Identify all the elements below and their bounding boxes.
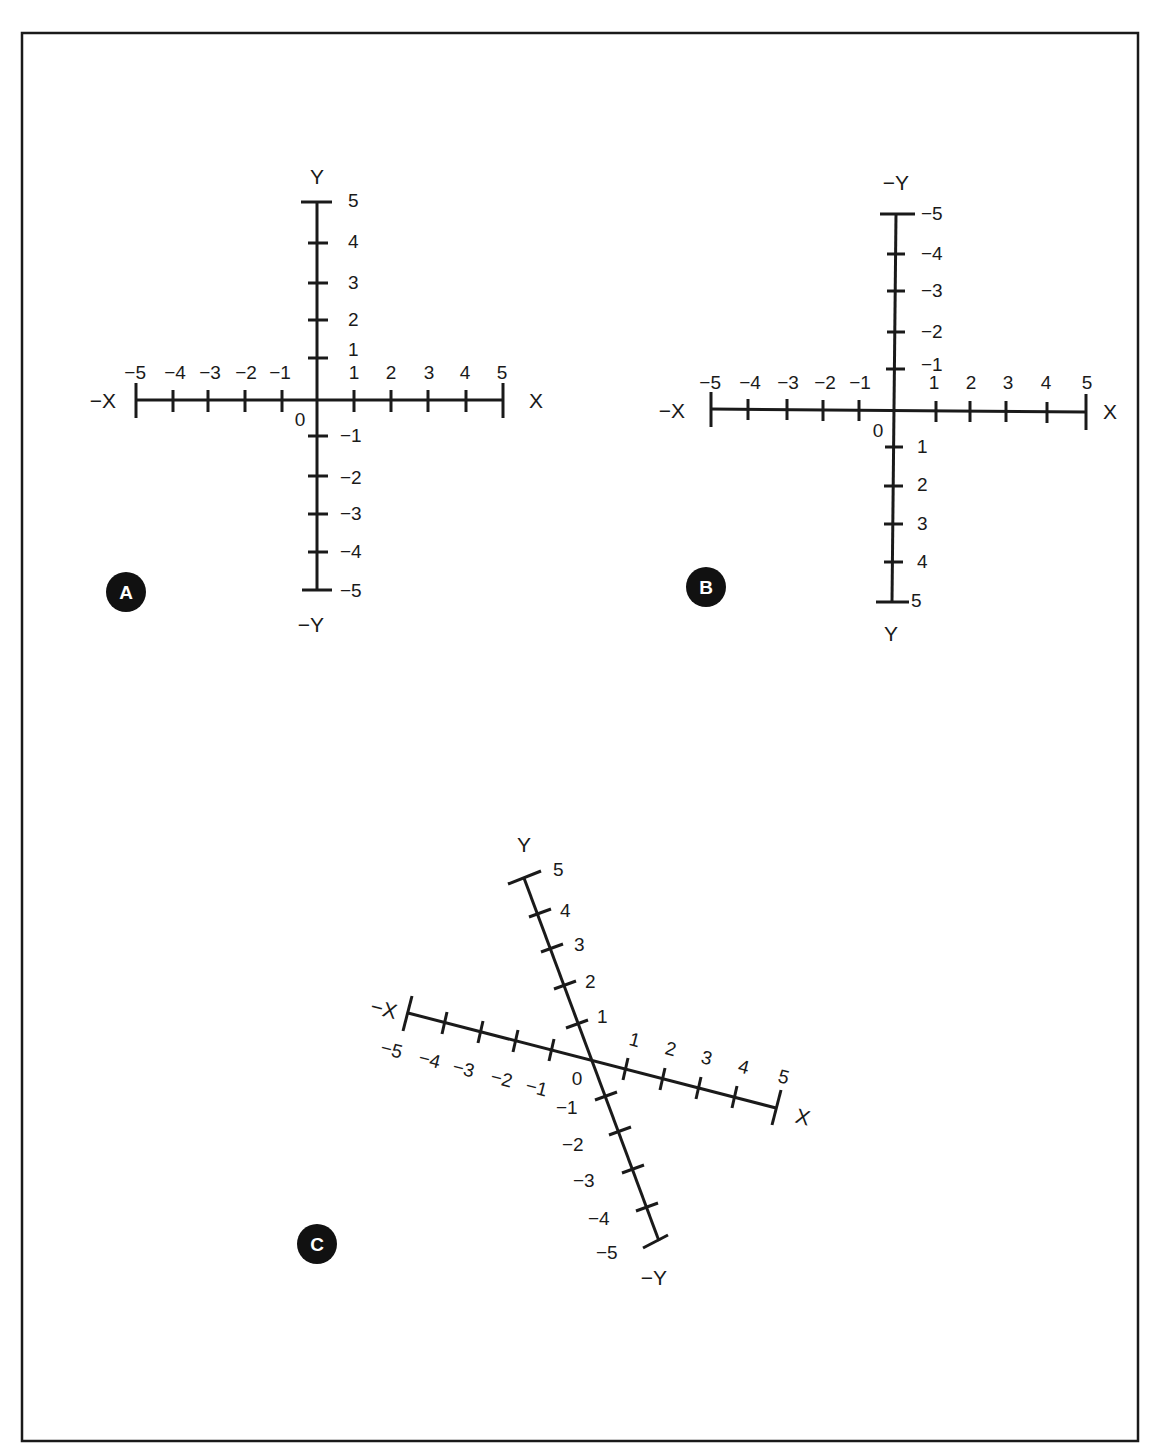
svg-text:−2: −2 — [340, 467, 362, 488]
panel-a-pos-x-label: X — [529, 389, 543, 412]
svg-text:−3: −3 — [573, 1170, 595, 1191]
panel-a-neg-y-label: −Y — [298, 613, 324, 636]
svg-text:2: 2 — [585, 971, 596, 992]
svg-text:4: 4 — [1041, 372, 1052, 393]
svg-text:−1: −1 — [269, 362, 291, 383]
svg-text:B: B — [699, 577, 713, 598]
svg-text:3: 3 — [1003, 372, 1014, 393]
svg-text:−4: −4 — [340, 541, 362, 562]
panel-b-x-axis — [711, 409, 1086, 412]
panel-a-y-tick-labels: 5 4 3 2 1 −1 −2 −3 −4 −5 — [340, 190, 362, 601]
svg-text:4: 4 — [736, 1055, 752, 1078]
panel-a: −5 −4 −3 −2 −1 1 2 3 4 5 −X X — [90, 165, 543, 636]
svg-text:4: 4 — [560, 900, 571, 921]
panel-c-badge: C — [297, 1224, 337, 1264]
svg-text:5: 5 — [348, 190, 359, 211]
panel-b-neg-y-label: −Y — [883, 171, 909, 194]
svg-text:1: 1 — [597, 1006, 608, 1027]
svg-text:−1: −1 — [524, 1075, 550, 1101]
panel-c-pos-y-label: Y — [517, 833, 531, 856]
panel-c-pos-x-label: X — [793, 1104, 812, 1130]
panel-c: −5 −4 −3 −2 −1 1 2 3 4 5 −X X — [297, 833, 813, 1289]
svg-text:4: 4 — [348, 231, 359, 252]
svg-text:−3: −3 — [777, 372, 799, 393]
panel-b-y-axis — [892, 214, 896, 602]
svg-text:−5: −5 — [921, 203, 943, 224]
figure-canvas: −5 −4 −3 −2 −1 1 2 3 4 5 −X X — [0, 0, 1162, 1450]
panel-b-y-tick-labels: −5 −4 −3 −2 −1 1 2 3 4 5 — [911, 203, 943, 611]
svg-text:2: 2 — [348, 309, 359, 330]
svg-text:5: 5 — [911, 590, 922, 611]
svg-text:1: 1 — [917, 436, 928, 457]
svg-text:−3: −3 — [199, 362, 221, 383]
svg-text:−4: −4 — [921, 243, 943, 264]
panel-c-neg-x-label: −X — [368, 994, 399, 1023]
svg-text:A: A — [119, 582, 133, 603]
svg-text:−1: −1 — [340, 425, 362, 446]
svg-text:2: 2 — [966, 372, 977, 393]
panel-b-badge: B — [686, 567, 726, 607]
svg-text:−3: −3 — [921, 280, 943, 301]
panel-b-pos-x-label: X — [1103, 400, 1117, 423]
panel-c-origin-label: 0 — [572, 1068, 583, 1089]
svg-text:1: 1 — [929, 372, 940, 393]
panel-b-neg-x-label: −X — [659, 399, 685, 422]
svg-text:5: 5 — [776, 1065, 791, 1088]
svg-text:−1: −1 — [921, 354, 943, 375]
svg-text:−3: −3 — [451, 1056, 477, 1082]
svg-text:−2: −2 — [814, 372, 836, 393]
svg-text:1: 1 — [627, 1028, 642, 1051]
svg-text:2: 2 — [386, 362, 397, 383]
panel-a-pos-y-label: Y — [310, 165, 324, 188]
svg-text:C: C — [310, 1234, 324, 1255]
svg-text:−5: −5 — [340, 580, 362, 601]
svg-text:5: 5 — [497, 362, 508, 383]
svg-text:3: 3 — [574, 934, 585, 955]
panel-a-origin-label: 0 — [295, 409, 306, 430]
figure-frame — [22, 33, 1138, 1441]
svg-text:−4: −4 — [739, 372, 761, 393]
svg-text:−4: −4 — [588, 1208, 610, 1229]
svg-text:−2: −2 — [489, 1066, 515, 1092]
panel-c-y-bottom-cap — [643, 1235, 668, 1248]
svg-text:1: 1 — [349, 362, 360, 383]
axes-figure: −5 −4 −3 −2 −1 1 2 3 4 5 −X X — [0, 0, 1162, 1450]
svg-text:−2: −2 — [921, 321, 943, 342]
svg-text:−3: −3 — [340, 503, 362, 524]
svg-text:−5: −5 — [379, 1037, 405, 1063]
panel-c-y-tick-labels: 5 4 3 2 1 −1 −2 −3 −4 −5 — [553, 859, 618, 1263]
panel-b-origin-label: 0 — [873, 420, 884, 441]
svg-text:−4: −4 — [417, 1047, 444, 1073]
svg-text:−1: −1 — [849, 372, 871, 393]
panel-a-badge: A — [106, 572, 146, 612]
panel-b-pos-y-label: Y — [884, 622, 898, 645]
panel-a-neg-x-label: −X — [90, 389, 116, 412]
panel-c-neg-y-label: −Y — [641, 1266, 667, 1289]
svg-text:−2: −2 — [235, 362, 257, 383]
svg-text:−1: −1 — [556, 1097, 578, 1118]
svg-text:5: 5 — [553, 859, 564, 880]
svg-text:3: 3 — [348, 272, 359, 293]
svg-text:4: 4 — [460, 362, 471, 383]
svg-text:−5: −5 — [596, 1242, 618, 1263]
svg-text:3: 3 — [424, 362, 435, 383]
svg-text:2: 2 — [663, 1037, 678, 1060]
svg-text:3: 3 — [917, 513, 928, 534]
panel-b: −5 −4 −3 −2 −1 1 2 3 4 5 −X X — [659, 171, 1117, 645]
svg-text:4: 4 — [917, 551, 928, 572]
svg-text:−5: −5 — [699, 372, 721, 393]
svg-text:−5: −5 — [124, 362, 146, 383]
svg-text:1: 1 — [348, 339, 359, 360]
svg-text:5: 5 — [1082, 372, 1093, 393]
svg-text:−4: −4 — [164, 362, 186, 383]
svg-text:3: 3 — [699, 1046, 714, 1069]
svg-text:−2: −2 — [562, 1134, 584, 1155]
svg-text:2: 2 — [917, 474, 928, 495]
